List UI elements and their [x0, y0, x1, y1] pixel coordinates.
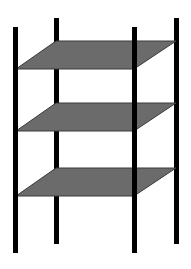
- pole-front-right: [132, 27, 137, 253]
- shelving-unit-drawing: [0, 0, 191, 269]
- shelf-bottom: [16, 168, 176, 196]
- pole-back-right: [174, 18, 179, 244]
- shelf-middle: [16, 103, 176, 131]
- shelf-diagram: [0, 0, 191, 269]
- pole-front-left: [13, 27, 18, 253]
- shelf-top: [16, 41, 176, 69]
